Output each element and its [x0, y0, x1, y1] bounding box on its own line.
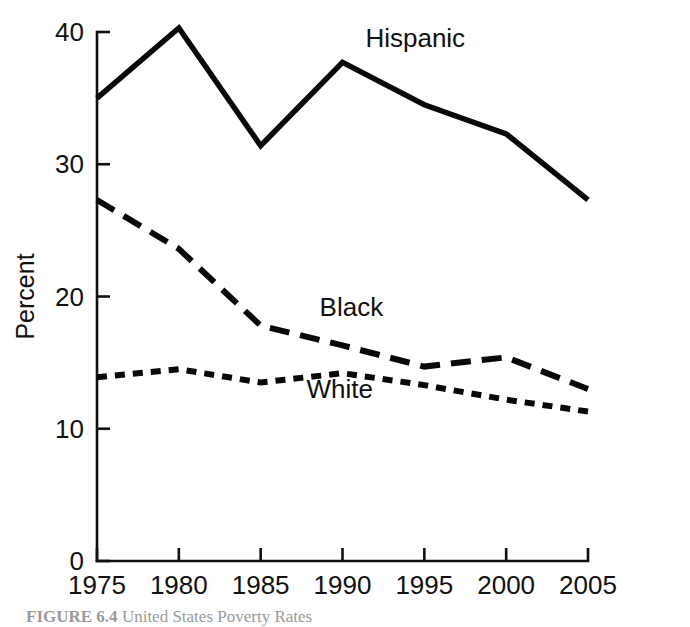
figure-caption: FIGURE 6.4 United States Poverty Rates — [26, 607, 666, 627]
series-label-white: White — [306, 374, 372, 404]
series-line-hispanic — [97, 28, 588, 200]
x-tick-label: 1995 — [395, 570, 453, 600]
series-label-hispanic: Hispanic — [365, 23, 465, 53]
x-tick-label: 1980 — [150, 570, 208, 600]
x-axis-ticks — [97, 548, 588, 561]
figure-caption-prefix: FIGURE 6.4 — [26, 607, 118, 626]
y-axis-ticks — [97, 32, 110, 561]
y-axis-title: Percent — [11, 253, 39, 339]
y-tick-label: 40 — [55, 17, 84, 47]
y-axis-tick-labels: 010203040 — [55, 17, 84, 576]
x-tick-label: 1975 — [68, 570, 126, 600]
chart-series-group — [97, 28, 588, 412]
x-tick-label: 1985 — [232, 570, 290, 600]
x-tick-label: 1990 — [314, 570, 372, 600]
y-tick-label: 20 — [55, 282, 84, 312]
x-tick-label: 2000 — [477, 570, 535, 600]
figure-caption-text: United States Poverty Rates — [122, 607, 312, 626]
y-tick-label: 30 — [55, 149, 84, 179]
series-label-black: Black — [320, 292, 385, 322]
y-tick-label: 10 — [55, 414, 84, 444]
x-axis-tick-labels: 1975198019851990199520002005 — [68, 570, 617, 600]
series-inline-labels: HispanicBlackWhite — [306, 23, 465, 405]
x-tick-label: 2005 — [559, 570, 617, 600]
